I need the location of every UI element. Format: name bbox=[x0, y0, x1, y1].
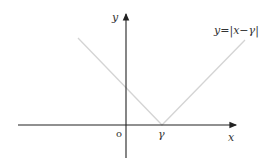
x-axis-label: x bbox=[228, 131, 235, 144]
absolute-value-diagram: y x o γ y=|x−γ| bbox=[0, 0, 278, 168]
origin-label: o bbox=[116, 128, 122, 139]
gamma-tick-label: γ bbox=[158, 128, 165, 141]
function-label: y=|x−γ| bbox=[213, 24, 259, 38]
y-axis-label: y bbox=[111, 11, 119, 24]
abs-value-curve bbox=[78, 38, 245, 125]
